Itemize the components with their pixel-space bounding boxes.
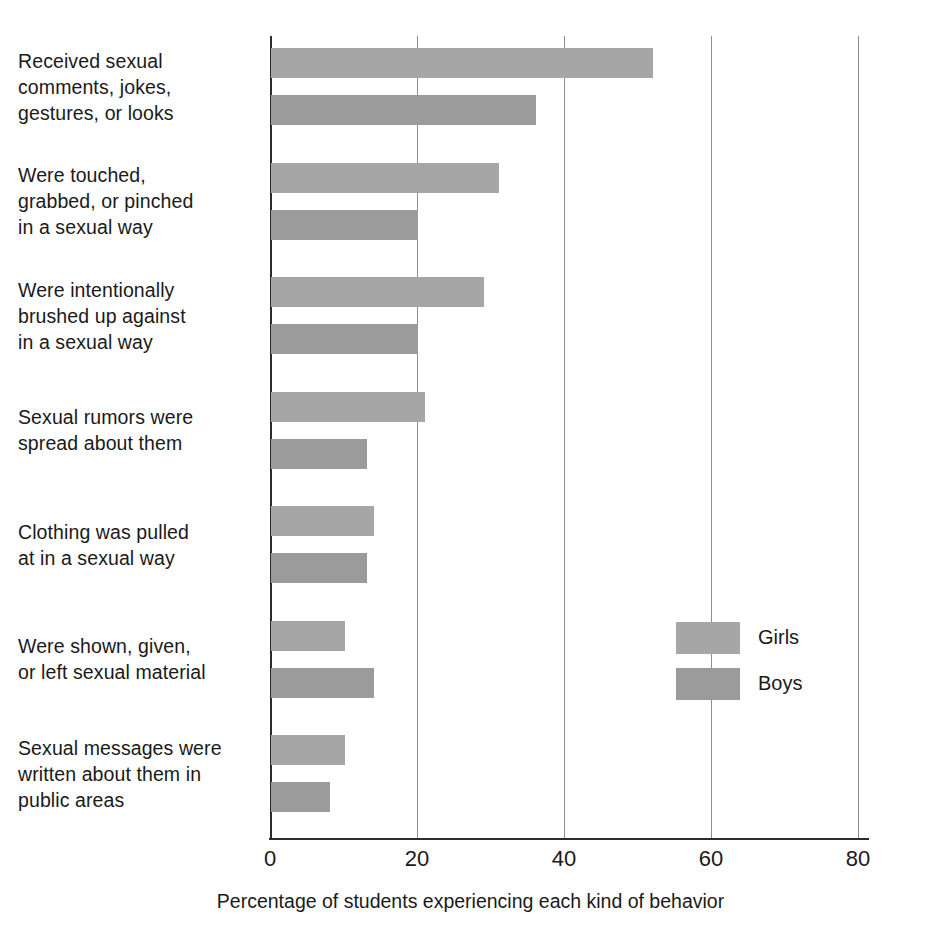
category-label-3: Sexual rumors werespread about them bbox=[18, 404, 270, 456]
bar-boys-6 bbox=[271, 782, 330, 812]
category-label-0: Received sexualcomments, jokes,gestures,… bbox=[18, 48, 270, 126]
category-label-line: Sexual rumors were bbox=[18, 404, 252, 430]
category-label-line: written about them in bbox=[18, 761, 252, 787]
category-label-line: in a sexual way bbox=[18, 214, 252, 240]
category-label-line: Received sexual bbox=[18, 48, 252, 74]
bar-girls-2 bbox=[271, 277, 484, 307]
y-axis-line bbox=[270, 36, 272, 838]
category-label-line: Were intentionally bbox=[18, 277, 252, 303]
bar-girls-5 bbox=[271, 621, 345, 651]
bar-chart: Received sexualcomments, jokes,gestures,… bbox=[0, 0, 941, 928]
x-axis-line bbox=[269, 838, 869, 840]
bar-boys-2 bbox=[271, 324, 418, 354]
gridline-20 bbox=[417, 36, 418, 838]
category-label-line: Clothing was pulled bbox=[18, 519, 252, 545]
category-label-line: Were touched, bbox=[18, 162, 252, 188]
legend-label-girls: Girls bbox=[758, 620, 799, 654]
x-tick-60: 60 bbox=[699, 846, 723, 872]
category-label-line: in a sexual way bbox=[18, 329, 252, 355]
category-label-2: Were intentionallybrushed up againstin a… bbox=[18, 277, 270, 355]
x-axis-title: Percentage of students experiencing each… bbox=[0, 890, 941, 913]
category-label-line: grabbed, or pinched bbox=[18, 188, 252, 214]
x-tick-0: 0 bbox=[264, 846, 276, 872]
gridline-40 bbox=[564, 36, 565, 838]
x-tick-80: 80 bbox=[846, 846, 870, 872]
gridline-80 bbox=[858, 36, 859, 838]
category-label-line: brushed up against bbox=[18, 303, 252, 329]
bar-girls-6 bbox=[271, 735, 345, 765]
x-tick-40: 40 bbox=[552, 846, 576, 872]
bar-boys-5 bbox=[271, 668, 374, 698]
bar-girls-4 bbox=[271, 506, 374, 536]
category-label-4: Clothing was pulledat in a sexual way bbox=[18, 519, 270, 571]
category-label-line: at in a sexual way bbox=[18, 545, 252, 571]
category-label-1: Were touched,grabbed, or pinchedin a sex… bbox=[18, 162, 270, 240]
category-label-line: or left sexual material bbox=[18, 659, 252, 685]
x-tick-20: 20 bbox=[405, 846, 429, 872]
bar-girls-3 bbox=[271, 392, 425, 422]
category-label-6: Sexual messages werewritten about them i… bbox=[18, 735, 270, 813]
bar-boys-3 bbox=[271, 439, 367, 469]
category-label-line: public areas bbox=[18, 787, 252, 813]
category-label-5: Were shown, given,or left sexual materia… bbox=[18, 633, 270, 685]
category-label-line: comments, jokes, bbox=[18, 74, 252, 100]
plot-area bbox=[270, 36, 858, 838]
category-labels: Received sexualcomments, jokes,gestures,… bbox=[0, 36, 270, 838]
bar-boys-0 bbox=[271, 95, 536, 125]
legend-swatch-girls bbox=[676, 622, 740, 654]
bar-girls-1 bbox=[271, 163, 499, 193]
category-label-line: Sexual messages were bbox=[18, 735, 252, 761]
bar-girls-0 bbox=[271, 48, 653, 78]
legend-label-boys: Boys bbox=[758, 666, 802, 700]
gridline-60 bbox=[711, 36, 712, 838]
legend-swatch-boys bbox=[676, 668, 740, 700]
category-label-line: Were shown, given, bbox=[18, 633, 252, 659]
bar-boys-4 bbox=[271, 553, 367, 583]
bar-boys-1 bbox=[271, 210, 418, 240]
category-label-line: gestures, or looks bbox=[18, 100, 252, 126]
category-label-line: spread about them bbox=[18, 430, 252, 456]
